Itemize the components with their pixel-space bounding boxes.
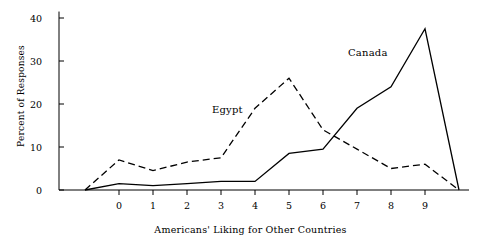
- chart-container: Percent of Responses 40 30 20 10 0 0 1 2…: [0, 0, 501, 241]
- plot-area: [0, 0, 501, 241]
- series-line-egypt: [85, 78, 459, 190]
- series-line-canada: [85, 29, 459, 190]
